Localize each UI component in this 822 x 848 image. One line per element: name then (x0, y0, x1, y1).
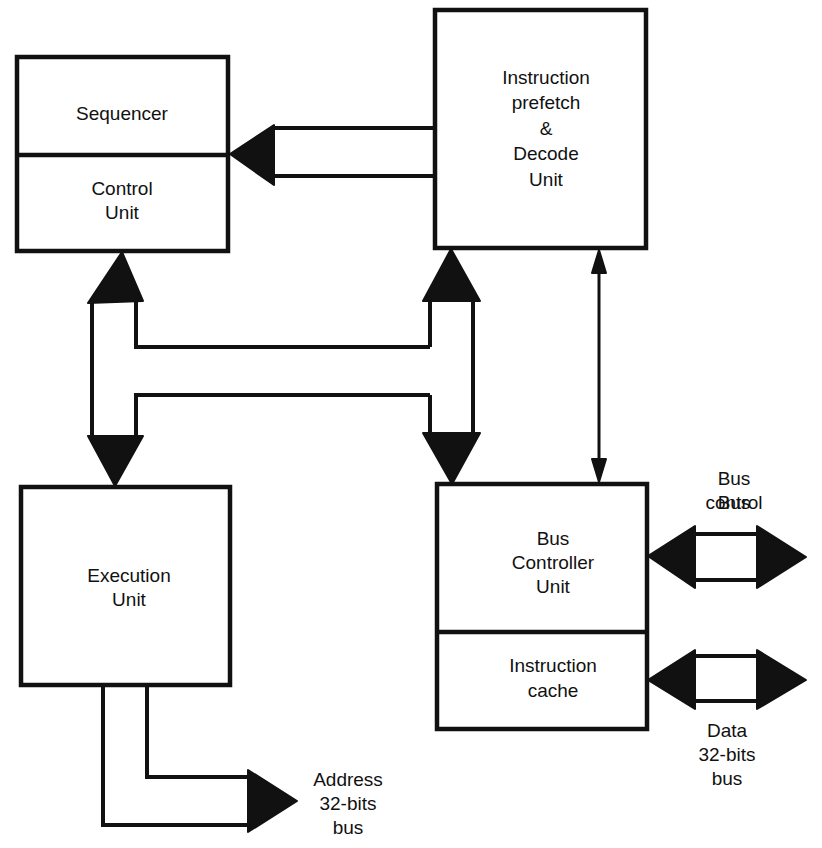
instruction-cache-label-line1: Instruction (509, 655, 597, 676)
bus-controller-label-line3: Unit (536, 576, 571, 597)
data-bus-arrow: Data 32-bits bus (648, 650, 806, 789)
arrowhead-right-address-icon (248, 770, 297, 832)
address-bus-label-line2: 32-bits (319, 793, 376, 814)
arrowhead-down-execution-icon (88, 436, 143, 486)
decode-label-line2: prefetch (512, 92, 581, 113)
sequencer-control-block: Sequencer Control Unit (17, 57, 228, 251)
arrowhead-left-data-bus-icon (648, 650, 695, 709)
decode-to-sequencer-arrow (230, 125, 435, 185)
internal-wide-bus (88, 249, 480, 486)
bus-controller-label-line2: Controller (512, 552, 595, 573)
control-unit-label-line2: Unit (105, 202, 140, 223)
data-bus-label-line1: Data (707, 720, 748, 741)
decode-label-line4: Decode (513, 143, 579, 164)
arrowhead-left-bus-control-icon (648, 526, 695, 588)
bus-controller-label-line1: Bus (537, 528, 570, 549)
arrowhead-down-bus-controller-icon (423, 433, 480, 484)
bus-control-label-top: Bus (718, 468, 751, 489)
decode-label-line3: & (540, 118, 553, 139)
execution-label-line2: Unit (112, 589, 147, 610)
data-bus-label-line2: 32-bits (698, 744, 755, 765)
cpu-block-diagram: Sequencer Control Unit Instruction prefe… (0, 0, 822, 848)
arrowhead-up-decode-icon (423, 249, 480, 301)
execution-unit-block: Execution Unit (21, 487, 230, 685)
arrowhead-thin-down-icon (592, 459, 606, 482)
bus-controller-block: Bus Controller Unit Instruction cache (437, 484, 647, 729)
bus-control-label-bottom: control (705, 492, 762, 513)
data-bus-label-line3: bus (712, 768, 743, 789)
arrowhead-up-control-icon (88, 252, 143, 303)
address-bus-arrow: Address 32-bits bus (101, 685, 383, 838)
arrowhead-right-data-bus-icon (757, 650, 806, 709)
execution-unit-box (21, 487, 230, 685)
instruction-cache-label-line2: cache (528, 680, 579, 701)
decode-unit-block: Instruction prefetch & Decode Unit (435, 10, 646, 248)
decode-label-line5: Unit (529, 169, 564, 190)
decode-bus-controller-thin-arrow (592, 250, 606, 482)
decode-label-line1: Instruction (502, 67, 590, 88)
arrowhead-right-bus-control-icon (757, 526, 806, 588)
control-unit-label-line1: Control (91, 178, 152, 199)
arrowhead-thin-up-icon (592, 250, 606, 273)
arrowhead-left-icon (230, 125, 274, 185)
execution-label-line1: Execution (87, 565, 170, 586)
address-bus-label-line3: bus (333, 817, 364, 838)
sequencer-label: Sequencer (76, 103, 169, 124)
address-bus-label-line1: Address (313, 769, 383, 790)
